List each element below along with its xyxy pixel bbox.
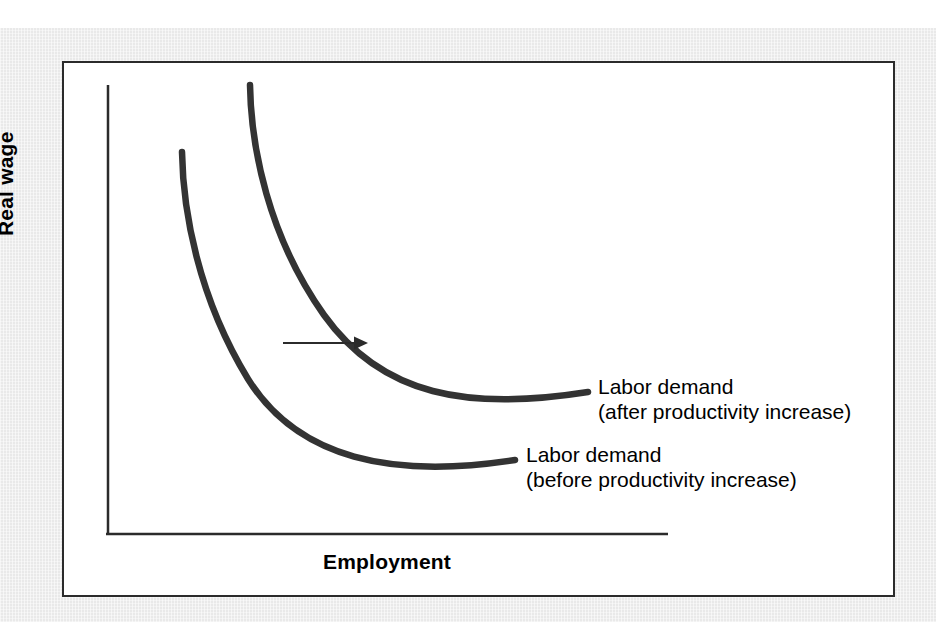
- legend-after-line1: Labor demand: [598, 375, 851, 400]
- labor-demand-before-curve: [182, 152, 515, 467]
- legend-label-before: Labor demand (before productivity increa…: [526, 443, 797, 493]
- shift-arrow-icon: [283, 337, 368, 350]
- legend-label-after: Labor demand (after productivity increas…: [598, 375, 851, 425]
- figure-root: Real wage Employment Labor demand (after…: [0, 0, 948, 637]
- plot-area: [62, 61, 895, 597]
- labor-demand-after-curve: [250, 85, 588, 399]
- x-axis-title: Employment: [323, 550, 451, 574]
- legend-before-line1: Labor demand: [526, 443, 797, 468]
- legend-before-line2: (before productivity increase): [526, 468, 797, 493]
- y-axis-title: Real wage: [0, 131, 18, 236]
- legend-after-line2: (after productivity increase): [598, 400, 851, 425]
